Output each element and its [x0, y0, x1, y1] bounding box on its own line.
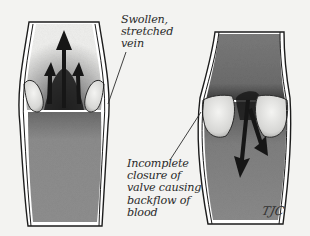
- label-line: blood: [127, 207, 201, 219]
- label-line: vein: [121, 38, 173, 50]
- leader-line-incomplete: [170, 112, 201, 160]
- leader-line-swollen: [108, 52, 126, 104]
- label-swollen-vein: Swollen, stretched vein: [121, 14, 173, 51]
- vein-illustration: Swollen, stretched vein Incomplete closu…: [0, 0, 310, 236]
- label-line: valve causing: [127, 182, 201, 194]
- label-incomplete-closure: Incomplete closure of valve causing back…: [127, 158, 201, 219]
- artist-signature: TJC: [261, 204, 286, 218]
- label-line: backflow of: [127, 195, 201, 207]
